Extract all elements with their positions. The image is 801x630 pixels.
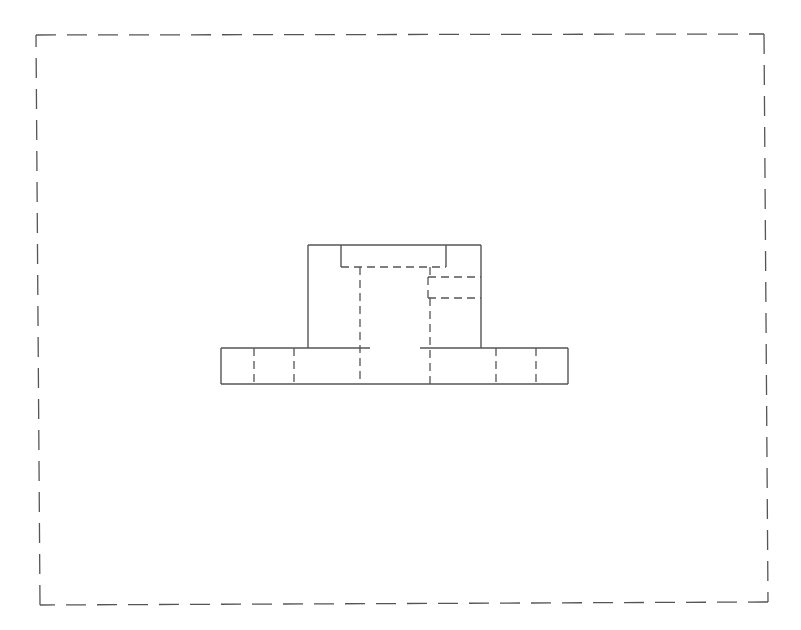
frame-left-edge (36, 35, 40, 605)
frame-top-edge (36, 34, 764, 35)
technical-drawing (0, 0, 801, 630)
visible-outline-lines (221, 245, 568, 384)
drawing-border-frame (36, 34, 768, 605)
frame-bottom-edge (40, 602, 768, 605)
hidden-lines (254, 267, 536, 384)
frame-right-edge (764, 34, 768, 602)
